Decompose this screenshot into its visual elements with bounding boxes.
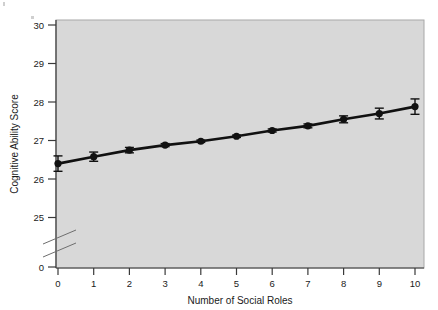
- x-tick-label-4: 4: [198, 278, 203, 289]
- data-point-x2: [126, 147, 133, 154]
- data-point-x9: [376, 110, 383, 117]
- data-point-x0: [54, 160, 61, 167]
- data-point-x1: [90, 153, 97, 160]
- x-tick-label-3: 3: [162, 278, 167, 289]
- y-tick-label-0: 0: [39, 262, 44, 273]
- y-tick-label-29: 29: [33, 58, 44, 69]
- y-tick-label-27: 27: [33, 135, 44, 146]
- scan-speck: [3, 2, 5, 6]
- x-tick-label-1: 1: [91, 278, 96, 289]
- x-axis-title: Number of Social Roles: [187, 295, 292, 306]
- x-tick-label-6: 6: [270, 278, 275, 289]
- y-tick-label-26: 26: [33, 174, 44, 185]
- data-point-x6: [269, 127, 276, 134]
- data-point-x5: [233, 133, 240, 140]
- cognitive-ability-line-chart: 30 29 28 27 26 25 0 Cognitive Ability Sc…: [0, 0, 438, 310]
- data-point-x10: [411, 103, 418, 110]
- data-point-x4: [197, 138, 204, 145]
- y-tick-label-28: 28: [33, 97, 44, 108]
- figure-container: 30 29 28 27 26 25 0 Cognitive Ability Sc…: [0, 0, 438, 310]
- x-tick-label-10: 10: [410, 278, 421, 289]
- y-axis-title: Cognitive Ability Score: [9, 94, 20, 194]
- data-point-x8: [340, 116, 347, 123]
- x-tick-label-8: 8: [341, 278, 346, 289]
- y-tick-label-25: 25: [33, 212, 44, 223]
- x-tick-label-9: 9: [377, 278, 382, 289]
- x-tick-label-7: 7: [305, 278, 310, 289]
- data-point-x7: [304, 122, 311, 129]
- plot-area-background: [56, 20, 424, 268]
- x-tick-label-5: 5: [234, 278, 239, 289]
- x-tick-label-0: 0: [55, 278, 60, 289]
- x-tick-label-2: 2: [127, 278, 132, 289]
- y-tick-label-30: 30: [33, 20, 44, 31]
- scan-speck: [31, 16, 34, 19]
- data-point-x3: [162, 142, 169, 149]
